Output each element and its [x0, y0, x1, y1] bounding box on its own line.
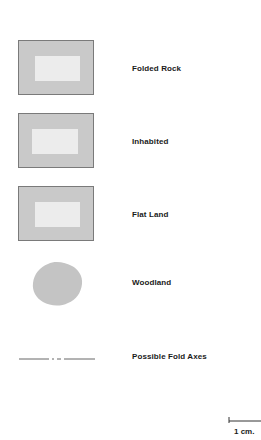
legend-label-folded-rock: Folded Rock	[132, 64, 181, 73]
folded-rock-swatch	[18, 40, 94, 95]
legend-label-possible-fold-axes: Possible Fold Axes	[132, 352, 207, 361]
swatch-center	[35, 202, 80, 227]
legend-label-flat-land: Flat Land	[132, 210, 168, 219]
fold-axis-line-icon	[19, 356, 95, 362]
flat-land-swatch	[18, 186, 94, 241]
legend-label-inhabited: Inhabited	[132, 137, 168, 146]
scale-bar-icon	[228, 416, 261, 424]
woodland-blob-icon	[30, 260, 86, 308]
swatch-center	[35, 56, 80, 81]
legend-label-woodland: Woodland	[132, 278, 171, 287]
swatch-center	[32, 129, 78, 154]
scale-bar-label: 1 cm.	[234, 427, 254, 436]
inhabited-swatch	[18, 113, 94, 168]
